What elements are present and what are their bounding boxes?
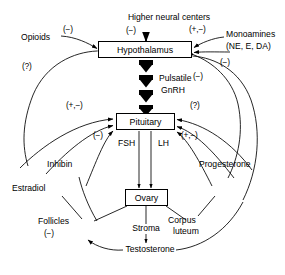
sign-monoamines-minus: (−): [220, 58, 230, 67]
label-luteum: luteum: [173, 227, 199, 236]
sign-pituitary-right-plusminus: (+,−): [181, 131, 198, 140]
sign-higher-neural: (−): [126, 26, 136, 35]
box-ovary-label: Ovary: [135, 193, 158, 203]
arrow-monoamines-minus-to-hypothalamus: [194, 52, 230, 53]
label-higher-neural-centers: Higher neural centers: [128, 13, 210, 22]
label-fsh: FSH: [118, 139, 135, 148]
label-inhibin: Inhibin: [47, 160, 72, 169]
sign-pituitary-left-plusminus: (+,−): [66, 101, 83, 110]
label-lh: LH: [158, 139, 169, 148]
line-follicles-up-inhibin: [79, 177, 97, 221]
arrow-testosterone-to-follicles: [88, 240, 123, 250]
label-progesterone: Progesterone: [199, 160, 251, 169]
box-hypothalamus[interactable]: Hypothalamus: [98, 41, 192, 58]
sign-gnrh-minus: (−): [193, 72, 203, 81]
box-pituitary-label: Pituitary: [130, 117, 162, 127]
label-corpus: Corpus: [168, 216, 196, 225]
sign-opioids-question: (?): [22, 62, 32, 71]
label-estradiol: Estradiol: [12, 184, 45, 193]
box-pituitary[interactable]: Pituitary: [116, 113, 175, 130]
label-gnrh: GnRH: [161, 86, 185, 95]
label-monoamines: Monoamines: [226, 30, 275, 39]
arrow-left-outer-to-hypothalamus: [24, 51, 97, 166]
label-pulsatile: Pulsatile: [159, 74, 191, 83]
label-monoamines-detail: (NE, E, DA): [226, 42, 271, 51]
pulsatile-gnrh-arrows: [139, 60, 153, 116]
label-opioids: Opioids: [21, 33, 50, 42]
line-ovary-to-follicles: [94, 206, 127, 221]
box-ovary[interactable]: Ovary: [125, 189, 168, 206]
label-follicles: Follicles: [38, 217, 69, 226]
arrow-opioids-to-hypothalamus: [61, 36, 97, 49]
sign-monoamines-plusminus: (+,−): [189, 25, 206, 34]
label-stroma: Stroma: [132, 224, 160, 233]
hpo-axis-diagram: Hypothalamus Pituitary Ovary Higher neur…: [0, 0, 285, 275]
sign-follicles-minus: (−): [44, 229, 54, 238]
box-hypothalamus-label: Hypothalamus: [117, 45, 173, 55]
sign-pituitary-left-minus: (−): [93, 131, 103, 140]
sign-opioids: (−): [63, 25, 73, 34]
sign-pituitary-right-question: (?): [190, 101, 200, 110]
arrow-monoamines-to-hypothalamus: [194, 37, 224, 48]
label-testosterone: Testosterone: [125, 245, 174, 254]
line-corpus-luteum-to-progesterone: [198, 196, 215, 216]
